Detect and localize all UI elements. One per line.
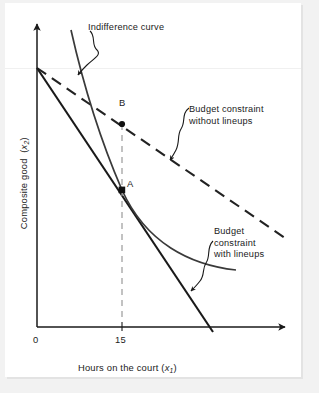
budget-with-lineups-leader-arrow	[191, 241, 213, 291]
y-axis-title-close: )	[18, 137, 29, 140]
y-axis-title: Composite good (x2)	[18, 117, 32, 249]
plot-canvas	[0, 0, 319, 393]
budget-without-lineups-line-1: Budget constraint	[189, 104, 264, 114]
axis-origin-label: 0	[33, 334, 38, 346]
y-axis-title-variable: x	[18, 145, 29, 150]
x-axis-tick-label-15: 15	[115, 334, 126, 346]
x-axis-title-text: Hours on the court (	[78, 362, 165, 373]
budget-with-lineups-line-2: constraint	[214, 238, 256, 248]
budget-constraint-without-lineups-label: Budget constraintwithout lineups	[189, 104, 264, 127]
indifference-curve-label: Indifference curve	[88, 22, 164, 34]
figure-root: Indifference curve Budget constraintwith…	[0, 0, 319, 393]
budget-with-lineups-line-1: Budget	[214, 226, 244, 236]
x-axis-title: Hours on the court (x1)	[78, 362, 177, 376]
y-axis-title-text: Composite good (	[18, 149, 29, 229]
indifference-curve-path	[71, 30, 236, 270]
point-a-marker	[119, 187, 126, 194]
budget-without-lineups-line-2: without lineups	[189, 116, 253, 126]
budget-without-lineups-leader-arrow	[170, 108, 189, 160]
budget-with-lineups-line-3: with lineups	[214, 249, 264, 259]
budget-constraint-without-lineups-line	[37, 68, 288, 240]
x-axis-title-close: )	[173, 362, 176, 373]
budget-constraint-with-lineups-label: Budgetconstraintwith lineups	[214, 226, 264, 261]
point-b-marker	[119, 121, 125, 127]
point-a-label: A	[127, 178, 133, 190]
point-b-label: B	[119, 97, 125, 109]
y-axis-title-subscript: 2	[23, 141, 30, 145]
